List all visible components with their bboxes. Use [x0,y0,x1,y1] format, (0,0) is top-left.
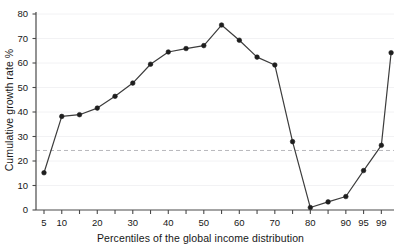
data-point-marker [290,139,295,144]
x-axis-tick-label: 30 [124,217,142,228]
data-point-marker [77,112,82,117]
x-axis-tick-label: 70 [266,217,284,228]
data-series-line [44,25,391,208]
data-point-marker [59,114,64,119]
data-point-marker [95,106,100,111]
data-point-marker [361,168,366,173]
y-axis-tick-label: 60 [12,57,28,68]
x-axis-tick-label: 5 [35,217,53,228]
x-axis-tick-label: 60 [230,217,248,228]
y-axis-tick-label: 10 [12,180,28,191]
y-axis-tick-label: 30 [12,131,28,142]
y-axis-tick-label: 0 [12,204,28,215]
data-point-marker [255,55,260,60]
y-axis-tick-label: 80 [12,8,28,19]
data-point-marker [130,81,135,86]
y-axis-tick-label: 40 [12,106,28,117]
data-point-marker [344,194,349,199]
data-point-marker [308,205,313,210]
x-axis-tick-label: 95 [355,217,373,228]
y-axis-tick-label: 70 [12,33,28,44]
data-point-marker [237,38,242,43]
x-axis-tick-label: 10 [53,217,71,228]
y-axis-tick-label: 50 [12,82,28,93]
x-axis-tick-label: 20 [88,217,106,228]
data-point-marker [219,23,224,28]
data-point-marker [184,46,189,51]
x-axis-tick-label: 50 [195,217,213,228]
data-point-marker [379,143,384,148]
data-point-marker [42,170,47,175]
x-axis-tick-label: 80 [301,217,319,228]
data-point-marker [202,43,207,48]
x-axis-tick-label: 90 [337,217,355,228]
data-point-marker [273,63,278,68]
x-axis-tick-label: 40 [159,217,177,228]
plot-area [0,0,401,250]
data-point-marker [389,50,394,55]
data-point-marker [326,200,331,205]
x-axis-tick-label: 99 [372,217,390,228]
data-point-marker [148,62,153,67]
chart-figure: Cumulative growth rate % 010203040506070… [0,0,401,250]
data-point-marker [166,50,171,55]
x-axis-title: Percentiles of the global income distrib… [0,232,401,244]
y-axis-tick-label: 20 [12,155,28,166]
data-point-marker [113,94,118,99]
